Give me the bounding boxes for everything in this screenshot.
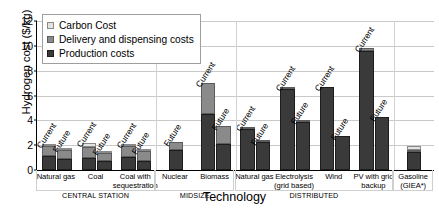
bar-segment-prod <box>375 117 390 170</box>
y-axis-tick-mark <box>34 120 37 121</box>
y-axis-tick-label: 4 <box>27 114 33 126</box>
bar-segment-prod <box>169 150 184 170</box>
legend-item-delivery-costs: Delivery and dispensing costs <box>47 32 194 46</box>
bar-segment-prod <box>97 161 112 170</box>
legend-swatch-delivery-icon <box>47 36 54 43</box>
group-separator <box>394 21 395 170</box>
group-label-central-station: CENTRAL STATION <box>36 191 155 200</box>
y-axis-tick-label: 8 <box>27 65 33 77</box>
y-axis-tick-mark <box>34 45 37 46</box>
group-label-midsize: MIDSIZE <box>155 191 234 200</box>
legend-label-delivery-costs: Delivery and dispensing costs <box>59 34 194 45</box>
bar-segment-prod <box>280 89 295 170</box>
bar-segment-carbon <box>407 146 422 150</box>
legend-swatch-production-icon <box>47 50 54 57</box>
bar-segment-prod <box>121 157 136 170</box>
y-axis-tick-label: 6 <box>27 90 33 102</box>
bar-segment-delivery <box>407 150 422 152</box>
legend-label-production-costs: Production costs <box>59 48 134 59</box>
bar-biomass-future <box>216 126 231 170</box>
bar-electrolysis-grid-based--current <box>280 87 295 170</box>
bar-segment-prod <box>82 158 97 170</box>
bar-segment-prod <box>57 159 72 170</box>
bar-segment-prod <box>137 161 152 170</box>
group-bracket <box>393 170 433 191</box>
bar-gasoline-giea- <box>407 146 422 170</box>
y-axis-tick-label: 10 <box>21 40 33 52</box>
group-label-distributed: DISTRIBUTED <box>235 191 394 200</box>
bar-segment-prod <box>256 142 271 170</box>
bar-wind-current <box>320 87 335 170</box>
bar-pv-with-grid-backup-future <box>375 117 390 170</box>
y-axis-tick-mark <box>34 70 37 71</box>
y-axis-tick-label: 2 <box>27 139 33 151</box>
group-bracket <box>235 170 394 191</box>
group-bracket <box>36 170 155 191</box>
legend-item-carbon-cost: Carbon Cost <box>47 18 194 32</box>
bar-segment-prod <box>296 122 311 170</box>
hydrogen-cost-chart: Hydrogen cost ($/kg) 024681012CurrentFut… <box>0 0 439 209</box>
legend-swatch-carbon-icon <box>47 22 54 29</box>
bar-segment-prod <box>407 152 422 170</box>
y-axis-tick-mark <box>34 21 37 22</box>
group-separator <box>236 21 237 170</box>
legend-item-production-costs: Production costs <box>47 46 194 60</box>
chart-legend: Carbon Cost Delivery and dispensing cost… <box>42 14 201 64</box>
group-bracket <box>155 170 234 191</box>
bar-electrolysis-grid-based--future <box>296 120 311 170</box>
y-axis-tick-mark <box>34 95 37 96</box>
legend-label-carbon-cost: Carbon Cost <box>59 20 116 31</box>
bar-segment-prod <box>320 87 335 170</box>
bar-segment-prod <box>216 144 231 170</box>
bar-segment-prod <box>42 156 57 170</box>
y-axis-tick-label: 12 <box>21 15 33 27</box>
